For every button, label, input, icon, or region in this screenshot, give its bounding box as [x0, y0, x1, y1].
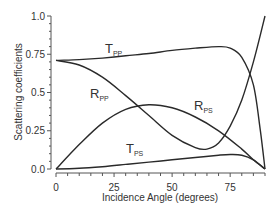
curves	[56, 16, 265, 169]
y-tick-label: 0.25	[26, 125, 46, 136]
x-tick-label: 0	[53, 182, 59, 193]
label-tps: TPS	[126, 141, 144, 157]
y-axis-label: Scattering coefficients	[13, 43, 24, 141]
y-tick-label: 0.75	[26, 49, 46, 60]
scattering-chart: 0.00.250.50.751.00255075 TPPRPPRPSTPS In…	[0, 0, 280, 216]
y-tick-label: 0.5	[31, 87, 45, 98]
x-tick-label: 75	[225, 182, 237, 193]
y-tick-label: 0.0	[31, 164, 45, 175]
y-tick-label: 1.0	[31, 11, 45, 22]
label-rps: RPS	[194, 98, 213, 114]
series-labels: TPPRPPRPSTPS	[90, 41, 213, 157]
axes: 0.00.250.50.751.00255075	[26, 11, 265, 194]
curve-tps	[56, 154, 265, 169]
label-rpp: RPP	[90, 86, 109, 102]
curve-rpp	[56, 16, 265, 150]
curve-rps	[56, 105, 265, 169]
x-axis-label: Incidence Angle (degrees)	[102, 192, 218, 203]
label-tpp: TPP	[105, 41, 123, 57]
curve-tpp	[56, 47, 265, 169]
